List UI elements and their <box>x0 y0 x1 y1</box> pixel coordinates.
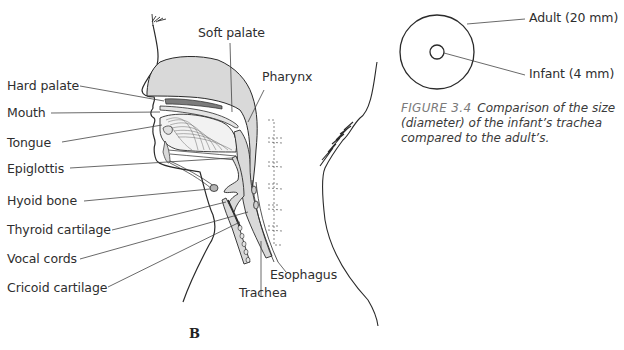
adult-leader-line <box>467 19 525 24</box>
infant-trachea-circle <box>430 45 444 59</box>
figure-number: FIGURE 3.4 <box>401 101 471 115</box>
label-tongue: Tongue <box>7 136 51 150</box>
infant-leader-line <box>444 53 525 75</box>
head-back-outline <box>320 62 378 326</box>
label-vocal-cords: Vocal cords <box>7 252 77 266</box>
anatomy-drawing <box>0 0 624 350</box>
panel-letter: B <box>189 326 200 341</box>
suprahyoid-muscles <box>168 150 236 189</box>
label-hard-palate: Hard palate <box>7 79 79 93</box>
label-infant-trachea: Infant (4 mm) <box>529 67 614 81</box>
eyebrow-sketch <box>152 14 166 26</box>
figure-caption: FIGURE 3.4Comparison of the size (diamet… <box>401 101 623 146</box>
hyoid-bone-shape <box>210 185 218 192</box>
label-pharynx: Pharynx <box>262 70 312 84</box>
adult-trachea-circle <box>400 15 474 89</box>
cervical-spine-dashed <box>268 120 282 245</box>
label-epiglottis: Epiglottis <box>7 162 64 176</box>
label-cricoid-cartilage: Cricoid cartilage <box>7 281 107 295</box>
label-adult-trachea: Adult (20 mm) <box>529 11 618 25</box>
label-mouth: Mouth <box>7 106 46 120</box>
trachea-comparison-graphic <box>400 15 525 89</box>
label-thyroid-cartilage: Thyroid cartilage <box>7 223 111 237</box>
label-trachea: Trachea <box>239 286 287 300</box>
label-soft-palate: Soft palate <box>198 26 265 40</box>
label-esophagus: Esophagus <box>270 268 337 282</box>
label-hyoid-bone: Hyoid bone <box>7 194 77 208</box>
